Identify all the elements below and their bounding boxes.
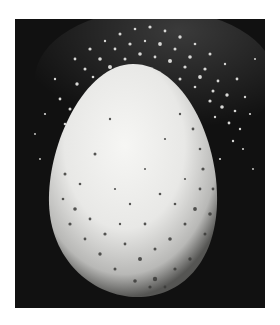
- egg-photograph: [15, 19, 265, 308]
- egg-illustration: [15, 19, 265, 308]
